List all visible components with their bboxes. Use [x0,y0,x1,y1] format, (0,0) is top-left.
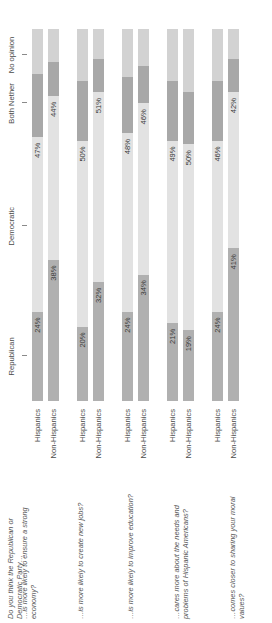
bar-segment-both [93,59,104,92]
bar-segment-rep [228,248,239,401]
bar-value-label: 24% [122,318,133,333]
group-label-hispanics: Hispanics [213,409,222,442]
bar-row: 21%49% [167,29,178,401]
bar-value-label: 51% [93,98,104,113]
bar-value-label: 44% [48,102,59,117]
bar-segment-both [228,59,239,92]
bar-value-label: 19% [183,336,194,351]
bar-segment-noop [93,29,104,59]
bar-segment-both [183,92,194,144]
bar-value-label: 50% [77,146,88,161]
bar-value-label: 24% [32,318,43,333]
bar-segment-both [32,74,43,137]
bar-segment-noop [138,29,149,66]
bar-value-label: 32% [93,288,104,303]
group-label-non-hispanics: Non-Hispanics [94,409,103,458]
bar-value-label: 21% [167,329,178,344]
group-label-non-hispanics: Non-Hispanics [49,409,58,458]
group-label-hispanics: Hispanics [123,409,132,442]
bar-value-label: 48% [122,139,133,154]
question-label: …is more likely to improve education? [126,479,135,619]
bar-segment-dem [183,144,194,330]
bar-value-label: 46% [212,146,223,161]
bar-segment-both [48,63,59,96]
bar-segment-noop [122,29,133,77]
bar-value-label: 20% [77,332,88,347]
question-label: …cares more about the needs and problems… [172,479,190,619]
bar-segment-dem [228,92,239,248]
bar-segment-dem [77,141,88,327]
bar-segment-dem [32,137,43,312]
question-label: …is more likely to ensure a strong econo… [20,479,38,619]
bar-segment-both [77,81,88,141]
bar-row: 34%46% [138,29,149,401]
group-label-hispanics: Hispanics [78,409,87,442]
bar-row: 38%44% [48,29,59,401]
bar-value-label: 38% [48,265,59,280]
bar-segment-dem [212,141,223,312]
bar-segment-both [212,81,223,141]
group-label-non-hispanics: Non-Hispanics [184,409,193,458]
bar-value-label: 42% [228,98,239,113]
bar-segment-both [138,66,149,103]
bar-value-label: 34% [138,280,149,295]
bar-segment-dem [48,96,59,260]
bar-segment-noop [32,29,43,74]
bar-value-label: 50% [183,150,194,165]
bar-value-label: 49% [167,146,178,161]
bar-segment-rep [48,260,59,401]
bar-segment-both [122,77,133,133]
group-label-hispanics: Hispanics [168,409,177,442]
bar-row: 32%51% [93,29,104,401]
bar-segment-dem [93,92,104,282]
bar-value-label: 47% [32,143,43,158]
bar-segment-dem [122,133,133,312]
bar-segment-dem [167,141,178,323]
group-label-non-hispanics: Non-Hispanics [139,409,148,458]
bar-value-label: 46% [138,109,149,124]
bar-segment-noop [228,29,239,59]
chart-rotation-wrapper: Do you think the Republican or Democrati… [0,0,272,623]
bar-row: 24%48% [122,29,133,401]
bar-row: 20%50% [77,29,88,401]
stacked-bar-plot: 24%47%38%44%20%50%32%51%24%48%34%46%21%4… [0,29,272,401]
question-label-column: Do you think the Republican or Democrati… [0,475,272,623]
bar-row: 24%47% [32,29,43,401]
group-label-column: HispanicsNon-HispanicsHispanicsNon-Hispa… [0,405,272,473]
bar-value-label: 24% [212,318,223,333]
bar-row: 41%42% [228,29,239,401]
question-label: …comes closer to sharing your moral valu… [228,479,246,619]
bar-segment-noop [167,29,178,81]
bar-segment-noop [212,29,223,81]
question-label: …is more likely to create new jobs? [76,479,85,619]
bar-segment-dem [138,103,149,274]
group-label-non-hispanics: Non-Hispanics [229,409,238,458]
bar-segment-noop [183,29,194,92]
bar-segment-both [167,81,178,141]
bar-row: 24%46% [212,29,223,401]
chart-canvas: Do you think the Republican or Democrati… [0,0,272,623]
group-label-hispanics: Hispanics [33,409,42,442]
bar-value-label: 41% [228,254,239,269]
bar-segment-noop [77,29,88,81]
bar-row: 19%50% [183,29,194,401]
bar-segment-noop [48,29,59,62]
